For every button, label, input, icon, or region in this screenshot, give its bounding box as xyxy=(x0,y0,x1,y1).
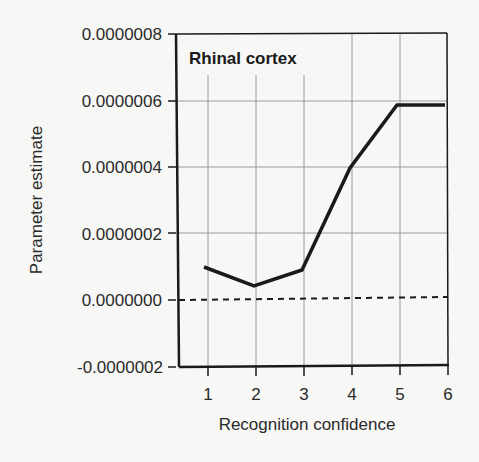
x-axis-label: Recognition confidence xyxy=(219,415,396,434)
plot-frame xyxy=(176,33,449,367)
y-tick-labels: 0.0000008 0.0000006 0.0000004 0.0000002 … xyxy=(77,25,163,377)
y-ticks xyxy=(168,34,176,367)
svg-text:6: 6 xyxy=(443,385,452,404)
svg-text:0.0000000: 0.0000000 xyxy=(82,291,162,310)
svg-text:4: 4 xyxy=(347,385,356,404)
chart-title: Rhinal cortex xyxy=(189,49,297,68)
svg-text:0.0000002: 0.0000002 xyxy=(82,225,162,244)
svg-text:1: 1 xyxy=(203,385,212,404)
svg-text:5: 5 xyxy=(395,385,404,404)
svg-text:0.0000004: 0.0000004 xyxy=(82,158,162,177)
grid xyxy=(176,34,447,366)
svg-text:0.0000008: 0.0000008 xyxy=(82,25,162,44)
svg-text:0.0000006: 0.0000006 xyxy=(82,92,162,111)
data-line xyxy=(204,105,445,286)
svg-text:3: 3 xyxy=(299,385,308,404)
zero-reference-line xyxy=(179,297,448,300)
svg-text:2: 2 xyxy=(251,385,260,404)
y-axis-label: Parameter estimate xyxy=(27,126,46,274)
svg-text:-0.0000002: -0.0000002 xyxy=(77,358,163,377)
x-tick-labels: 1 2 3 4 5 6 xyxy=(203,385,452,404)
chart: Rhinal cortex 0.0000008 0.0000006 0.0000… xyxy=(0,0,479,462)
